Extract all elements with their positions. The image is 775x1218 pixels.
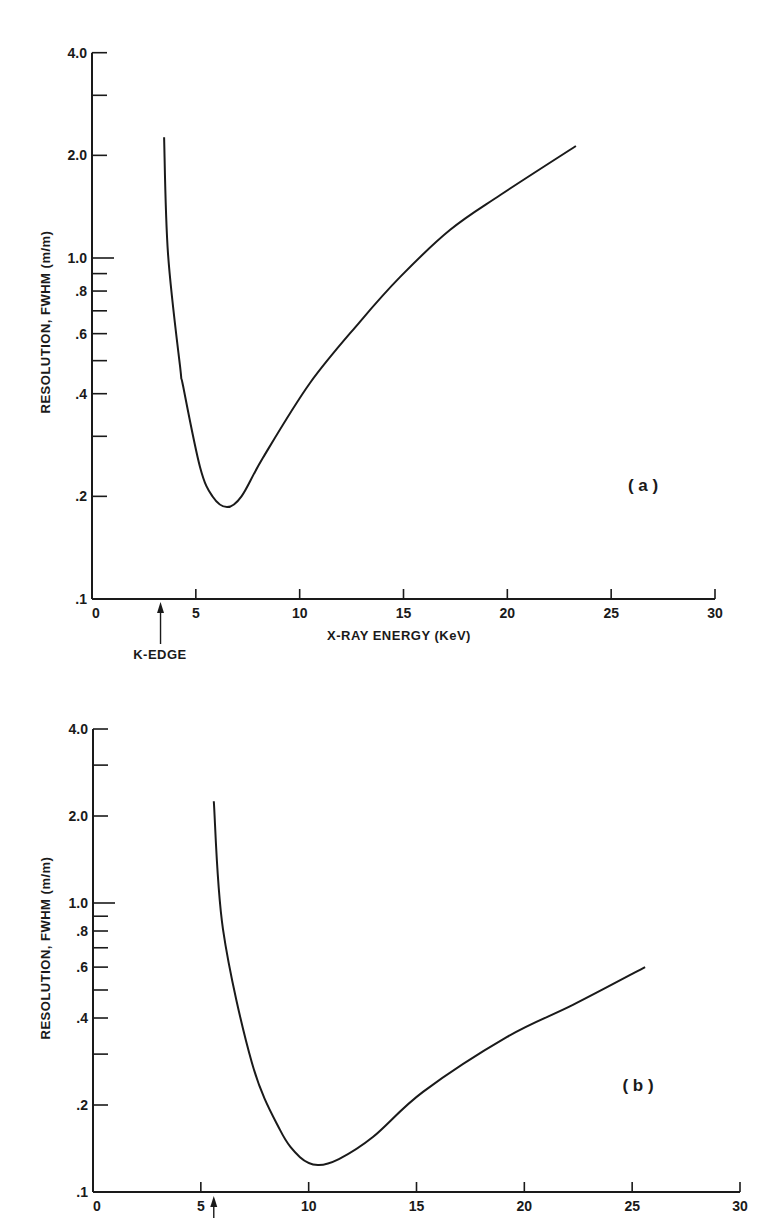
- y-tick-label: 4.0: [68, 45, 88, 61]
- y-tick-label: .6: [76, 959, 88, 975]
- x-tick-label: 15: [409, 1198, 425, 1214]
- y-tick-label: .2: [75, 488, 87, 504]
- y-tick-label: 2.0: [68, 147, 88, 163]
- y-tick-label: 1.0: [69, 895, 89, 911]
- y-axis-title-b: RESOLUTION, FWHM (m/m): [38, 857, 53, 1040]
- x-tick-label: 25: [603, 605, 619, 621]
- x-tick-label: 30: [707, 605, 723, 621]
- y-tick-label: .6: [75, 326, 87, 342]
- panel-label-a: ( a ): [628, 476, 658, 495]
- y-tick-label: .4: [76, 1010, 88, 1026]
- panel-label-b: ( b ): [622, 1076, 653, 1095]
- y-tick-label: 2.0: [69, 808, 89, 824]
- x-tick-label: 5: [192, 605, 200, 621]
- y-tick-label: .8: [75, 283, 87, 299]
- y-tick-label: 1.0: [68, 250, 88, 266]
- x-tick-label: 0: [93, 1198, 101, 1214]
- k-edge-label: K-EDGE: [133, 647, 187, 662]
- x-tick-label: 5: [197, 1198, 205, 1214]
- x-axis-title-a: X-RAY ENERGY (KeV): [327, 628, 471, 643]
- arrow-head-icon: [157, 602, 164, 613]
- x-tick-label: 0: [92, 605, 100, 621]
- y-tick-label: .1: [76, 1184, 88, 1200]
- x-tick-label: 10: [292, 605, 308, 621]
- x-tick-label: 25: [624, 1198, 640, 1214]
- y-axis-title-a: RESOLUTION, FWHM (m/m): [38, 231, 53, 414]
- y-tick-label: .2: [76, 1097, 88, 1113]
- resolution-curve: [214, 801, 645, 1165]
- x-tick-label: 15: [396, 605, 412, 621]
- chart-panel-b: .1.2.4.6.81.02.04.0051015202530: [69, 721, 748, 1218]
- x-tick-label: 20: [517, 1198, 533, 1214]
- x-tick-label: 30: [732, 1198, 748, 1214]
- y-tick-label: 4.0: [69, 721, 89, 737]
- x-tick-label: 10: [301, 1198, 317, 1214]
- figure: .1.2.4.6.81.02.04.0051015202530 .1.2.4.6…: [0, 0, 775, 1218]
- x-tick-label: 20: [500, 605, 516, 621]
- resolution-curve: [164, 137, 576, 507]
- y-tick-label: .8: [76, 923, 88, 939]
- y-tick-label: .1: [75, 591, 87, 607]
- chart-panel-a: .1.2.4.6.81.02.04.0051015202530: [68, 45, 723, 644]
- arrow-head-icon: [210, 1196, 217, 1207]
- y-tick-label: .4: [75, 386, 87, 402]
